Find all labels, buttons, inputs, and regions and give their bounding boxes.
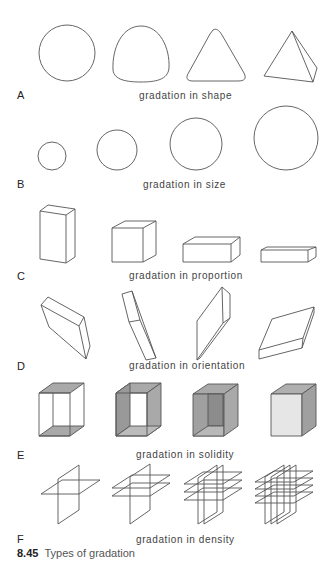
row-size-figures — [38, 106, 318, 170]
planes-4 — [255, 465, 313, 524]
tilted-slab-3 — [197, 287, 230, 360]
tilted-slab-1 — [41, 297, 90, 359]
caption-size: gradation in size — [143, 179, 226, 190]
planes-2 — [112, 464, 170, 524]
row-letter-b: B — [17, 178, 24, 190]
gradation-diagram — [0, 0, 328, 565]
cube-box — [112, 221, 156, 262]
large-circle — [170, 118, 222, 170]
tilted-slab-2 — [122, 291, 156, 360]
circle-shape — [39, 25, 95, 81]
tall-box — [40, 205, 75, 263]
planes-1 — [41, 465, 100, 524]
tetrahedron-shape — [264, 31, 317, 82]
tilted-slab-4 — [259, 307, 314, 359]
row-shape-figures — [39, 25, 317, 82]
caption-shape: gradation in shape — [139, 90, 232, 101]
caption-density: gradation in density — [136, 534, 235, 545]
row-density-figures — [41, 464, 313, 524]
figure-caption: 8.45Types of gradation — [17, 547, 135, 559]
rounded-blob-shape — [113, 26, 169, 82]
xlarge-circle — [254, 106, 318, 170]
small-circle — [38, 142, 66, 170]
frame-cube-3 — [193, 384, 238, 436]
row-solidity-figures — [39, 383, 316, 436]
row-letter-e: E — [17, 449, 24, 461]
rounded-triangle-shape — [187, 29, 245, 81]
frame-cube-2 — [116, 383, 161, 436]
figure-title: Types of gradation — [44, 547, 135, 559]
row-orientation-figures — [41, 287, 314, 360]
row-letter-c: C — [17, 270, 25, 282]
figure-number: 8.45 — [17, 547, 38, 559]
wide-box — [183, 237, 240, 262]
row-proportion-figures — [40, 205, 316, 263]
frame-cube-1 — [39, 383, 84, 436]
caption-proportion: gradation in proportion — [129, 270, 243, 281]
planes-3 — [184, 465, 242, 524]
caption-orientation: gradation in orientation — [129, 360, 245, 371]
row-letter-d: D — [17, 360, 25, 372]
row-letter-f: F — [17, 533, 24, 545]
row-letter-a: A — [17, 89, 24, 101]
solid-cube-4 — [271, 384, 316, 436]
medium-circle — [97, 130, 137, 170]
flat-box — [261, 247, 316, 262]
caption-solidity: gradation in solidity — [136, 449, 234, 460]
